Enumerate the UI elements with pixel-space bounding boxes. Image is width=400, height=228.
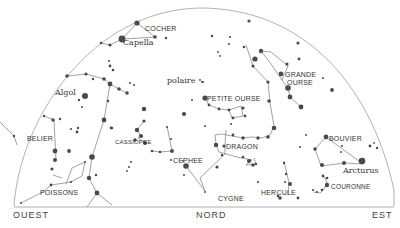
- label-petite-ourse: PETITE OURSE: [207, 95, 261, 102]
- label-belier: BELIER: [27, 135, 53, 142]
- label-grande-ourse-line1: GRANDE: [285, 71, 316, 78]
- label-poissons: POISSONS: [40, 189, 78, 196]
- label-couronne: COURONNE: [331, 184, 371, 191]
- label-cephee: CEPHEE: [173, 157, 203, 164]
- label-capella: Capella: [123, 39, 154, 47]
- label-west: OUEST: [13, 211, 49, 220]
- label-dragon: DRAGON: [226, 143, 258, 150]
- constellation-lines: [0, 23, 363, 207]
- label-grande-ourse-line2: OURSE: [287, 79, 313, 86]
- sky-dome-outline: [14, 8, 394, 206]
- label-hercule: HERCULE: [261, 189, 296, 196]
- label-north: NORD: [196, 211, 227, 220]
- label-cassiopee: CASSIOPEE: [115, 139, 151, 145]
- label-cygne: CYGNE: [218, 195, 244, 202]
- stars: [13, 19, 378, 204]
- label-polaire: polaire: [167, 77, 195, 85]
- label-arcturus: Arcturus: [343, 167, 379, 175]
- label-east: EST: [372, 211, 393, 220]
- label-bouvier: BOUVIER: [329, 135, 362, 142]
- label-cocher: COCHER: [145, 25, 177, 32]
- label-algol: Algol: [55, 89, 76, 97]
